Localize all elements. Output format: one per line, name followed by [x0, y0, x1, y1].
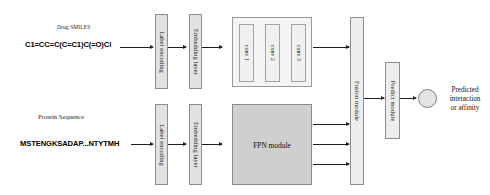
protein-embedding-layer-label: Embedding layer	[192, 121, 199, 167]
output-line-1: Predicted	[441, 86, 489, 95]
arrow-protein-embedding-to-fpn	[202, 144, 222, 145]
arrow-conv-to-fusion	[313, 47, 349, 48]
arrow-drug-label-to-embedding	[168, 47, 186, 48]
fpn-module-box: FPN module	[232, 104, 312, 185]
fpn-module-label: FPN module	[233, 140, 311, 149]
conv-block-1-label: conv 1	[244, 45, 250, 61]
arrow-fpn-to-fusion-3	[313, 164, 349, 165]
output-line-2: interaction	[441, 95, 489, 104]
arrow-protein-label-to-embedding	[168, 144, 186, 145]
drug-embedding-layer-box: Embedding layer	[189, 14, 202, 89]
fusion-module-box: Fusion module	[350, 17, 364, 185]
conv-group-container: conv 1 conv 2 conv 3	[232, 17, 312, 87]
drug-label-encoding-label: Label encoding	[158, 31, 165, 73]
output-line-3: or affinity	[441, 104, 489, 113]
arrow-fpn-to-fusion-1	[313, 124, 349, 125]
protein-label-encoding-label: Label encoding	[158, 124, 165, 166]
output-text-block: Predicted interaction or affinity	[441, 86, 489, 112]
arrow-protein-to-label-encoding	[131, 144, 153, 145]
arrow-predict-to-output	[400, 98, 416, 99]
arrow-fusion-to-predict	[364, 98, 384, 99]
drug-label-encoding-box: Label encoding	[155, 14, 168, 89]
drug-embedding-layer-label: Embedding layer	[192, 28, 199, 74]
arrow-fpn-to-fusion-2	[313, 144, 349, 145]
conv-block-2-label: conv 2	[270, 45, 276, 61]
arrow-drug-embedding-to-conv	[202, 47, 222, 48]
fusion-module-label: Fusion module	[354, 81, 361, 121]
conv-block-3: conv 3	[291, 24, 306, 82]
conv-block-1: conv 1	[239, 24, 254, 82]
protein-label-encoding-box: Label encoding	[155, 104, 168, 185]
drug-smiles-sequence: C1=CC=C(C=C1)C(=O)Cl	[25, 40, 111, 49]
conv-block-2: conv 2	[265, 24, 280, 82]
architecture-diagram: Drug SMILES C1=CC=C(C=C1)C(=O)Cl Label e…	[0, 0, 490, 195]
predict-module-box: Predict module	[385, 62, 400, 139]
output-node-circle	[418, 89, 437, 108]
arrow-drug-to-label-encoding	[120, 47, 153, 48]
conv-block-3-label: conv 3	[296, 45, 302, 61]
protein-sequence-caption: Protein Sequence	[38, 113, 84, 120]
protein-sequence-value: MSTENGKSADAP...NTYTMH	[20, 139, 119, 148]
protein-embedding-layer-box: Embedding layer	[189, 104, 202, 185]
drug-smiles-caption: Drug SMILES	[57, 24, 90, 30]
predict-module-label: Predict module	[389, 80, 396, 121]
